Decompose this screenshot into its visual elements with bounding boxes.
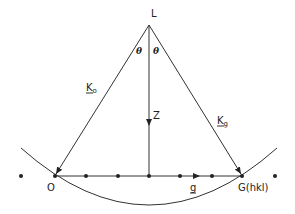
theta-right: θ	[153, 46, 159, 56]
label-g: g	[190, 182, 196, 193]
svg-text:g: g	[190, 182, 196, 193]
ewald-diagram: L O G(hkl) Z θ θ Ko Kg g	[0, 0, 295, 214]
label-O: O	[47, 182, 55, 193]
lattice-point	[273, 174, 277, 178]
z-arrowhead	[146, 119, 152, 126]
g-arrowhead	[193, 173, 200, 179]
kg-vector	[149, 25, 241, 174]
lattice-point	[19, 174, 23, 178]
label-k0: Ko	[86, 82, 97, 95]
lattice-point	[116, 174, 120, 178]
lattice-point	[84, 174, 88, 178]
label-kg: Kg	[217, 115, 228, 128]
theta-left: θ	[136, 46, 142, 56]
label-L: L	[151, 8, 157, 19]
lattice-point	[240, 174, 244, 178]
label-Z: Z	[153, 110, 160, 121]
lattice-point	[147, 174, 151, 178]
lattice-point	[53, 174, 57, 178]
lattice-point	[178, 174, 182, 178]
lattice-point	[210, 174, 214, 178]
label-G: G(hkl)	[238, 182, 269, 193]
